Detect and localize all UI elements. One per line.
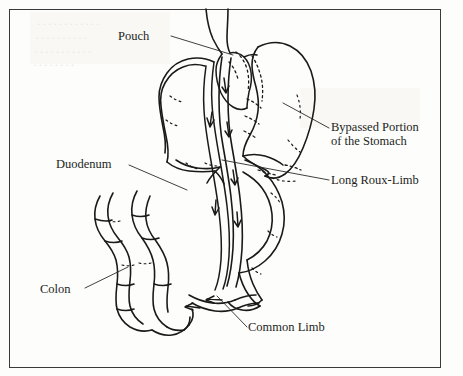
label-bypassed-stomach: Bypassed Portion of the Stomach [331,120,455,148]
figure-page: ············ ·········· ··········· ····… [0,0,463,376]
label-long-roux-limb: Long Roux-Limb [331,173,419,187]
leader-line-pouch [171,36,233,55]
duodenum-texture [166,96,217,169]
jejunal-texture [252,193,280,274]
label-common-limb: Common Limb [248,320,325,334]
leader-line-roux-limb [222,160,329,180]
leader-line-bypassed-stomach [283,103,329,128]
label-colon: Colon [40,282,71,296]
label-pouch: Pouch [118,29,149,43]
biliopancreatic-limb-part [204,62,230,290]
bypassed-stomach-part [243,43,315,178]
label-bypassed-stomach-line-1: Bypassed Portion [331,120,419,134]
esophagus-part [206,9,230,54]
label-bypassed-stomach-line-2: of the Stomach [331,134,407,148]
colon-part [95,191,193,335]
gastric-bypass-illustration [0,0,463,376]
label-duodenum: Duodenum [56,157,112,171]
